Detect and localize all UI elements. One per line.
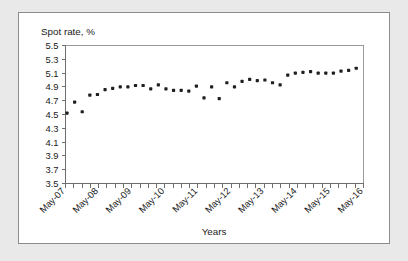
data-point xyxy=(134,84,137,87)
y-axis-tick-label: 5.1 xyxy=(45,68,58,79)
spot-rate-scatter-chart: Spot rate, % 5.55.35.14.94.74.54.34.13.9… xyxy=(19,13,389,243)
x-axis-title: Years xyxy=(202,226,227,237)
data-point xyxy=(103,88,106,91)
y-axis-tick-label: 4.5 xyxy=(45,109,58,120)
data-point xyxy=(271,81,274,84)
data-point xyxy=(294,72,297,75)
y-axis-tick-label: 4.1 xyxy=(45,137,58,148)
data-point xyxy=(180,89,183,92)
x-axis-tick-label: May-11 xyxy=(170,185,199,214)
x-axis-tick-label: May-16 xyxy=(335,185,365,215)
data-point xyxy=(263,78,266,81)
data-point xyxy=(81,110,84,113)
data-point xyxy=(210,85,213,88)
data-point xyxy=(195,85,198,88)
x-axis-tick-label: May-08 xyxy=(70,185,100,215)
data-point xyxy=(355,67,358,70)
data-point xyxy=(324,72,327,75)
data-point xyxy=(256,79,259,82)
y-axis-tick-label: 3.7 xyxy=(45,164,58,175)
y-axis-tick-label: 4.7 xyxy=(45,95,58,106)
data-point xyxy=(240,80,243,83)
data-point xyxy=(119,85,122,88)
y-axis-tick-label: 3.9 xyxy=(45,150,58,161)
data-point xyxy=(248,78,251,81)
x-axis-tick-label: May-07 xyxy=(37,185,67,215)
data-point xyxy=(339,69,342,72)
data-point xyxy=(286,74,289,77)
y-axis-tick-label: 5.3 xyxy=(45,54,58,65)
data-point xyxy=(233,85,236,88)
data-point xyxy=(279,83,282,86)
data-point xyxy=(172,89,175,92)
data-point xyxy=(317,72,320,75)
data-point xyxy=(157,83,160,86)
y-axis-tick-label: 4.3 xyxy=(45,123,58,134)
chart-canvas: Spot rate, % 5.55.35.14.94.74.54.34.13.9… xyxy=(19,13,389,243)
x-axis-tick-label: May-12 xyxy=(203,185,233,215)
x-axis-tick-label: May-15 xyxy=(302,185,332,215)
data-point xyxy=(88,94,91,97)
data-point xyxy=(65,112,68,115)
data-point xyxy=(332,72,335,75)
data-point-series xyxy=(65,67,357,115)
x-axis-tick-label: May-14 xyxy=(269,185,299,215)
x-axis: May-07May-08May-09May-10May-11May-12May-… xyxy=(37,184,365,216)
data-point xyxy=(149,87,152,90)
plot-area-border xyxy=(66,46,364,184)
data-point xyxy=(73,100,76,103)
x-axis-tick-label: May-10 xyxy=(136,185,166,215)
data-point xyxy=(218,97,221,100)
y-axis-tick-label: 5.5 xyxy=(45,40,58,51)
data-point xyxy=(202,96,205,99)
data-point xyxy=(301,71,304,74)
x-axis-tick-label: May-13 xyxy=(236,185,266,215)
data-point xyxy=(225,81,228,84)
chart-series-title: Spot rate, % xyxy=(41,26,95,37)
data-point xyxy=(347,69,350,72)
data-point xyxy=(126,85,129,88)
x-axis-tick-label: May-09 xyxy=(103,185,133,215)
y-axis: 5.55.35.14.94.74.54.34.13.93.73.5 xyxy=(45,40,65,189)
data-point xyxy=(187,89,190,92)
data-point xyxy=(111,87,114,90)
data-point xyxy=(96,93,99,96)
data-point xyxy=(142,84,145,87)
data-point xyxy=(164,87,167,90)
data-point xyxy=(309,70,312,73)
chart-panel: Spot rate, % 5.55.35.14.94.74.54.34.13.9… xyxy=(18,12,390,244)
y-axis-tick-label: 4.9 xyxy=(45,81,58,92)
